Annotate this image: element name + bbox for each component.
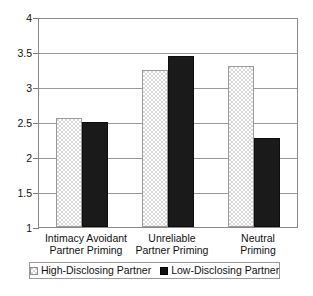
category-label: Neutral Priming (202, 232, 313, 256)
bar (82, 122, 108, 227)
category-label-line: Priming (202, 244, 313, 256)
y-tick-label: 2 (26, 153, 32, 163)
bar (168, 56, 194, 227)
legend: High-Disclosing Partner Low-Disclosing P… (29, 262, 280, 279)
y-tick-label: 3 (26, 83, 32, 93)
legend-label: Low-Disclosing Partner (171, 265, 279, 276)
y-tick-label: 4 (26, 13, 32, 23)
bar (142, 70, 168, 227)
bar (56, 118, 82, 227)
gridline (39, 53, 297, 54)
legend-entry-low-disclosing: Low-Disclosing Partner (160, 265, 279, 276)
y-tick-label: 3.5 (17, 48, 32, 58)
y-tick-label: 2.5 (17, 118, 32, 128)
legend-entry-high-disclosing: High-Disclosing Partner (30, 265, 151, 276)
legend-swatch-icon (30, 267, 38, 275)
plot-area (38, 18, 298, 228)
category-label-line: Neutral (202, 232, 313, 244)
legend-label: High-Disclosing Partner (41, 265, 151, 276)
legend-swatch-icon (160, 267, 168, 275)
y-tick-label: 1.5 (17, 188, 32, 198)
bar-chart: 4 3.5 3 2.5 2 1.5 1 Intimacy Avoidant Pa… (0, 0, 313, 296)
bar (254, 138, 280, 227)
y-tick-mark (33, 228, 38, 229)
bar (228, 66, 254, 227)
